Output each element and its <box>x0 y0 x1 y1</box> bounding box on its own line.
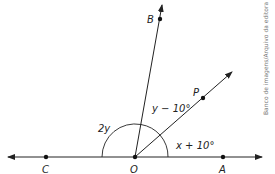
ray-OB <box>135 5 162 157</box>
point-O <box>133 155 137 159</box>
label-B: B <box>147 14 154 25</box>
label-angle-BOP: y − 10° <box>151 103 190 114</box>
label-P: P <box>193 87 200 98</box>
point-A <box>221 155 225 159</box>
image-credit: Banco de imagens/Arquivo da editora <box>262 2 270 115</box>
point-B <box>158 17 162 21</box>
geometry-diagram: B P C O A 2y y − 10° x + 10° Banco de im… <box>0 0 275 174</box>
arc-angle-POA <box>160 135 168 157</box>
point-C <box>44 155 48 159</box>
label-O: O <box>130 164 138 174</box>
label-angle-POA: x + 10° <box>175 140 214 151</box>
arc-angle-BOP <box>141 125 160 136</box>
label-angle-COB: 2y <box>98 123 111 134</box>
label-A: A <box>218 164 226 174</box>
label-C: C <box>42 164 49 174</box>
point-P <box>201 96 205 100</box>
